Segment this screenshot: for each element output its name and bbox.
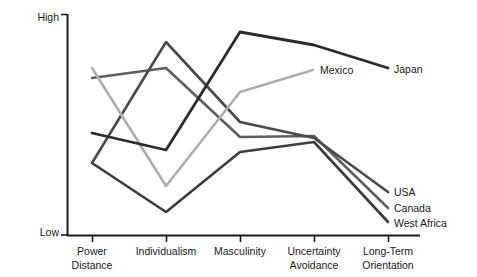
category-label-masculinity: Masculinity [214,245,267,257]
y-axis-high-label: High [37,11,59,23]
category-label-individualism: Individualism [136,245,197,257]
y-axis-low-label: Low [40,226,60,238]
series-line-mexico [92,68,313,186]
series-label-usa: USA [394,186,416,198]
category-label-power: Power [77,245,107,257]
series-label-west-africa: West Africa [394,217,447,229]
series-line-west-africa [92,142,388,222]
chart-page: High Low Mexico Japan USA Canada West Af… [0,0,477,277]
category-label-avoidance: Avoidance [290,259,339,271]
series-label-canada: Canada [394,202,431,214]
category-label-uncertainty: Uncertainty [287,245,341,257]
category-label-orientation: Orientation [362,259,414,271]
series-label-japan: Japan [394,63,423,75]
category-label-long-term: Long-Term [363,245,413,257]
category-label-distance: Distance [72,259,113,271]
series-label-mexico: Mexico [320,64,353,76]
culture-dimensions-line-chart: High Low Mexico Japan USA Canada West Af… [0,0,477,277]
